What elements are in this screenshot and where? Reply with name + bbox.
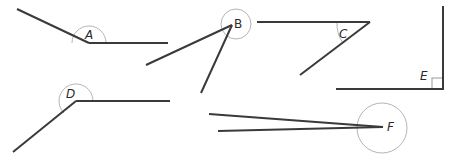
angle-f-ray-2 (218, 127, 383, 131)
angle-d-label: D (66, 87, 75, 101)
angle-c-ray-2 (300, 22, 370, 75)
angle-b-label: B (234, 17, 242, 31)
angle-c-label: C (339, 27, 348, 41)
angle-f: F (209, 103, 407, 153)
angle-c: C (257, 22, 370, 75)
angle-a: A (17, 9, 168, 43)
angle-d-arc (59, 84, 93, 113)
angle-f-ray-1 (209, 114, 383, 127)
angle-a-label: A (84, 28, 93, 42)
angle-a-ray-left (17, 9, 89, 43)
angle-b-ray-2 (201, 25, 232, 93)
angle-b: B (146, 9, 251, 93)
angle-d-ray-2 (13, 101, 76, 152)
angles-diagram: A B C D E F (0, 0, 451, 156)
angle-d: D (13, 84, 170, 152)
angle-e-label: E (420, 69, 428, 83)
angle-e: E (336, 6, 444, 90)
angle-f-label: F (387, 120, 395, 134)
right-angle-marker-icon (432, 78, 443, 89)
angle-b-ray-1 (146, 25, 232, 65)
